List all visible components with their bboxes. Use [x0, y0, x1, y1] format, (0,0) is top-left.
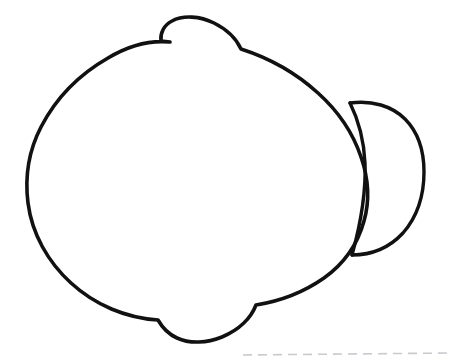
- line-drawing-svg: [0, 0, 452, 361]
- drawing-canvas: Line Drawing Black outline drawing of a …: [0, 0, 452, 361]
